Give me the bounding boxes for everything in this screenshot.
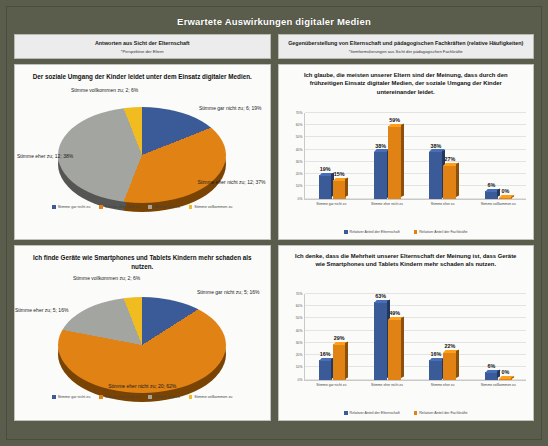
- bar-value-label: 19%: [320, 166, 331, 172]
- xaxis-label: Stimme eher zu: [415, 383, 471, 387]
- legend-item[interactable]: Stimme eher nicht zu: [99, 205, 139, 209]
- bar[interactable]: 27%: [443, 166, 456, 199]
- legend-label: Stimme eher nicht zu: [105, 205, 140, 209]
- yaxis-tick-label: 20%: [296, 172, 303, 176]
- bar[interactable]: 38%: [429, 152, 442, 199]
- legend-label: Stimme gar nicht zu: [58, 205, 91, 209]
- legend-item[interactable]: Stimme gar nicht zu: [52, 395, 90, 399]
- bar-value-label: 15%: [334, 171, 345, 177]
- bar[interactable]: 19%: [319, 175, 332, 198]
- yaxis-tick-label: 60%: [296, 123, 303, 127]
- legend-item[interactable]: Stimme gar nicht zu: [52, 205, 90, 209]
- pie-graphic-2: [58, 297, 226, 393]
- right-column-header-title: Gegenüberstellung von Elternschaft und p…: [283, 40, 530, 47]
- bar[interactable]: 15%: [333, 180, 346, 198]
- bar-group: 38%27%: [415, 113, 470, 199]
- legend-label: Stimme eher zu: [154, 205, 180, 209]
- legend-swatch-icon: [148, 205, 152, 209]
- page-title: Erwartete Auswirkungen digitaler Medien: [7, 7, 541, 34]
- pie-label-eher-zu-0: Stimme eher zu; 12; 38%: [17, 153, 73, 160]
- legend-item[interactable]: Stimme vollkommen zu: [189, 205, 233, 209]
- bar-group: 38%59%: [360, 113, 415, 199]
- yaxis-tick-label: 40%: [296, 148, 303, 152]
- bar[interactable]: 6%: [485, 191, 498, 198]
- legend-label: Stimme vollkommen zu: [194, 205, 232, 209]
- bar-value-label: 0%: [501, 188, 509, 194]
- bar[interactable]: 6%: [485, 372, 498, 379]
- bar-value-label: 59%: [389, 117, 400, 123]
- legend-swatch-icon: [344, 411, 348, 415]
- bar[interactable]: 29%: [333, 344, 346, 380]
- legend-item[interactable]: Relativer Anteil der Fachkräfte: [414, 230, 468, 234]
- pie-surface-2: [58, 297, 226, 393]
- left-column-header-subtitle: *Perspektive der Eltern: [19, 49, 266, 54]
- bar-side-face: [511, 195, 514, 197]
- bar-plot-area-1: 0%10%20%30%40%50%60%70%19%15%38%59%38%27…: [304, 113, 527, 200]
- pie-label-vollkommen-0: Stimme vollkommen zu; 2; 6%: [71, 87, 138, 94]
- bar-value-label: 0%: [501, 369, 509, 375]
- bar[interactable]: 16%: [319, 360, 332, 380]
- pie-graphic-0: [58, 107, 226, 203]
- xaxis-label: Stimme vollkommen zu: [470, 202, 526, 206]
- legend-item[interactable]: Stimme eher zu: [148, 205, 179, 209]
- bar-face: [333, 344, 346, 380]
- chart-panel-pie-geraete-schaden: Ich finde Geräte wie Smartphones und Tab…: [14, 245, 271, 421]
- legend-item[interactable]: Stimme vollkommen zu: [189, 395, 233, 399]
- bar-face: [429, 360, 442, 380]
- chart-panel-bar-soziale-umgang: Ich glaube, die meisten unserer Eltern s…: [278, 64, 535, 240]
- chart-title-bar-geraete-schaden: Ich denke, dass die Mehrheit unserer Elt…: [279, 246, 534, 269]
- legend-swatch-icon: [414, 411, 418, 415]
- right-column-header-subtitle: *Itemformulierungen aus Sicht der pädago…: [283, 49, 530, 54]
- bar-face: [333, 180, 346, 198]
- bar-legend-1: Relativer Anteil der Elternschaft Relati…: [279, 230, 534, 234]
- pie-geraete-schaden: Stimme vollkommen zu; 2; 6% Stimme gar n…: [15, 271, 270, 403]
- column-left: Antworten aus Sicht der Elternschaft *Pe…: [14, 34, 271, 426]
- legend-label: Stimme eher zu: [154, 395, 180, 399]
- legend-item[interactable]: Relativer Anteil der Elternschaft: [344, 230, 400, 234]
- legend-item[interactable]: Stimme eher zu: [148, 395, 179, 399]
- legend-item[interactable]: Relativer Anteil der Fachkräfte: [414, 411, 468, 415]
- bar-value-label: 63%: [375, 293, 386, 299]
- bar-group: 16%29%: [305, 294, 360, 380]
- bar-group: 19%15%: [305, 113, 360, 199]
- bar-groups: 19%15%38%59%38%27%6%0%: [305, 113, 527, 199]
- bar-group: 6%0%: [471, 113, 526, 199]
- chart-title-bar-soziale-umgang: Ich glaube, die meisten unserer Eltern s…: [279, 65, 534, 97]
- yaxis-tick-label: 10%: [296, 365, 303, 369]
- chart-panel-pie-soziale-umgang: Der soziale Umgang der Kinder leidet unt…: [14, 64, 271, 240]
- bar[interactable]: 22%: [443, 353, 456, 380]
- bar[interactable]: 16%: [429, 360, 442, 380]
- chart-title-pie-geraete-schaden: Ich finde Geräte wie Smartphones und Tab…: [15, 246, 270, 271]
- bar-value-label: 16%: [320, 351, 331, 357]
- bar[interactable]: 49%: [388, 320, 401, 380]
- legend-label: Relativer Anteil der Elternschaft: [350, 411, 400, 415]
- bar-groups: 16%29%63%49%16%22%6%0%: [305, 294, 527, 380]
- pie-label-gar-nicht-2: Stimme gar nicht zu; 5; 16%: [197, 289, 260, 296]
- chart-panel-bar-geraete-schaden: Ich denke, dass die Mehrheit unserer Elt…: [278, 245, 535, 421]
- legend-item[interactable]: Relativer Anteil der Elternschaft: [344, 411, 400, 415]
- bar[interactable]: 0%: [499, 198, 512, 199]
- yaxis-tick-label: 60%: [296, 304, 303, 308]
- yaxis-tick-label: 50%: [296, 316, 303, 320]
- xaxis-label: Stimme vollkommen zu: [470, 383, 526, 387]
- bar-face: [499, 379, 512, 380]
- bar[interactable]: 63%: [374, 302, 387, 379]
- yaxis-tick-label: 0%: [298, 197, 303, 201]
- pie-legend-2: Stimme gar nicht zu Stimme eher nicht zu…: [15, 395, 270, 399]
- bar-chart-geraete-schaden: 0%10%20%30%40%50%60%70%16%29%63%49%16%22…: [287, 290, 529, 394]
- bar[interactable]: 59%: [388, 126, 401, 198]
- legend-item[interactable]: Stimme eher nicht zu: [99, 395, 139, 399]
- left-column-header: Antworten aus Sicht der Elternschaft *Pe…: [14, 34, 271, 59]
- legend-label: Relativer Anteil der Elternschaft: [350, 230, 400, 234]
- bar[interactable]: 0%: [499, 379, 512, 380]
- bar-value-label: 6%: [487, 182, 495, 188]
- legend-label: Stimme vollkommen zu: [194, 395, 232, 399]
- column-right: Gegenüberstellung von Elternschaft und p…: [278, 34, 535, 426]
- bar[interactable]: 38%: [374, 152, 387, 199]
- bar-group: 63%49%: [360, 294, 415, 380]
- pie-label-eher-nicht-0: Stimme eher nicht zu; 12; 37%: [197, 179, 265, 186]
- pie-legend-0: Stimme gar nicht zu Stimme eher nicht zu…: [15, 205, 270, 209]
- bar-plot-area-3: 0%10%20%30%40%50%60%70%16%29%63%49%16%22…: [304, 294, 527, 381]
- bar-face: [485, 372, 498, 379]
- yaxis-tick-label: 70%: [296, 111, 303, 115]
